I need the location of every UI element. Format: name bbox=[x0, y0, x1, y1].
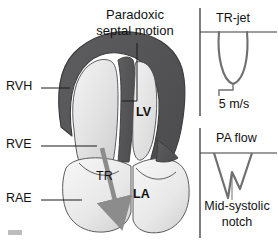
label-paradoxic-septal-motion-line2: septal motion bbox=[73, 24, 197, 38]
label-tr: TR bbox=[96, 170, 113, 184]
label-la: LA bbox=[133, 188, 150, 202]
pa-flow-envelope-trace bbox=[214, 153, 252, 198]
interventricular-septum bbox=[118, 57, 135, 162]
label-rae: RAE bbox=[6, 192, 32, 206]
tr-jet-panel-title: TR-jet bbox=[216, 12, 250, 26]
mid-systolic-notch-label-line2: notch bbox=[196, 216, 278, 230]
mid-systolic-notch-label-line1: Mid-systolic bbox=[196, 200, 278, 214]
label-rvh: RVH bbox=[6, 80, 32, 94]
label-paradoxic-septal-motion-line1: Paradoxic bbox=[73, 8, 197, 22]
right-ventricle-chamber bbox=[73, 59, 118, 162]
label-lv: LV bbox=[136, 106, 151, 120]
figure-caption-marker bbox=[8, 230, 22, 235]
pa-flow-panel-title: PA flow bbox=[216, 132, 257, 146]
tr-jet-velocity-annotation: 5 m/s bbox=[204, 98, 264, 112]
label-rve: RVE bbox=[6, 138, 31, 152]
tr-jet-velocity-bracket bbox=[219, 85, 233, 96]
tr-jet-envelope-trace bbox=[219, 32, 248, 84]
echocardiography-figure: RVH RVE RAE Paradoxic septal motion LV L… bbox=[0, 0, 278, 240]
